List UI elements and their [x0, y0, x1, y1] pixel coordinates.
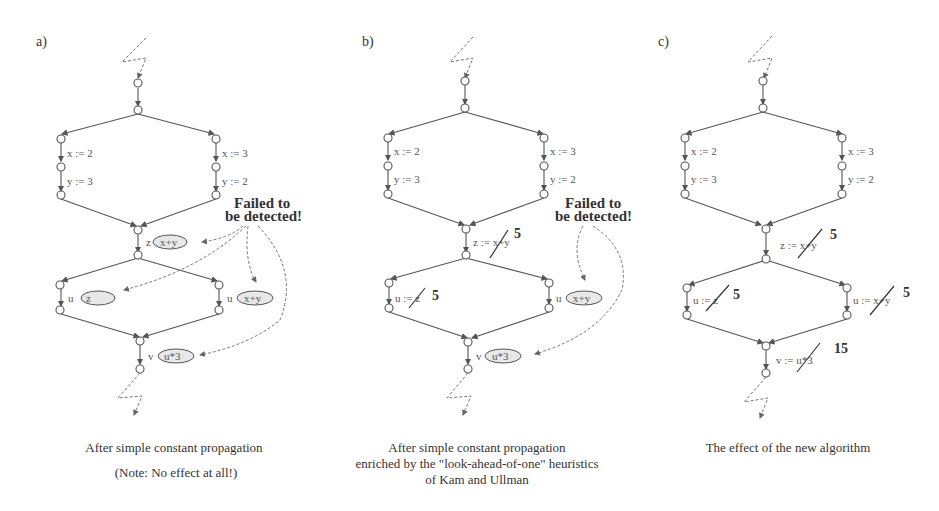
cfg-nodes — [681, 77, 851, 377]
stmt-y-2: y := 2 — [848, 173, 874, 185]
stmt-z-rhs: x+y — [160, 236, 178, 248]
stmt-u-right-lhs: u — [556, 292, 562, 304]
cfg-edges — [388, 85, 549, 364]
stmt-u-right-lhs: u — [227, 292, 233, 304]
stmt-v-rhs: u*3 — [492, 350, 509, 362]
caption-a-line2: (Note: No effect at all!) — [115, 465, 237, 480]
const-value: 5 — [830, 227, 837, 242]
annotation-arrows — [535, 226, 623, 354]
caption-a-line1: After simple constant propagation — [85, 440, 263, 455]
stmt-x-2: x := 2 — [394, 145, 420, 157]
panel-c: c) — [658, 34, 910, 455]
stmt-v-rhs: u*3 — [164, 350, 181, 362]
entry-squiggle — [450, 37, 473, 78]
stmt-u-right-rhs: x+y — [244, 292, 262, 304]
panel-b-label: b) — [362, 34, 374, 50]
stmt-x-3: x := 3 — [222, 147, 248, 159]
caption-c: The effect of the new algorithm — [706, 440, 871, 455]
panel-a-label: a) — [36, 34, 47, 50]
stmt-u-right-rhs: x+y — [573, 292, 591, 304]
caption-b-line1: After simple constant propagation — [388, 440, 566, 455]
stmt-z-lhs: z — [146, 236, 151, 248]
stmt-y-3: y := 3 — [394, 173, 420, 185]
failed-annotation-line2: be detected! — [225, 208, 302, 224]
stmt-z: z := x+y — [473, 236, 510, 248]
panel-b: b) — [355, 34, 632, 487]
stmt-x-3: x := 3 — [550, 145, 576, 157]
stmt-u-left: u := z — [693, 294, 718, 306]
cfg-nodes — [56, 79, 223, 373]
exit-squiggle — [118, 373, 142, 415]
caption-b-line3: of Kam and Ullman — [425, 472, 529, 487]
stmt-y-3: y := 3 — [691, 173, 717, 185]
stmt-x-3: x := 3 — [848, 145, 874, 157]
stmt-v: v := u*3 — [776, 354, 813, 366]
const-value: 5 — [432, 288, 439, 303]
stmt-y-2: y := 2 — [550, 173, 576, 185]
cfg-nodes — [384, 77, 553, 373]
entry-squiggle — [122, 38, 146, 78]
constant-propagation-figure: a) — [0, 0, 939, 511]
caption-b-line2: enriched by the "look-ahead-of-one" heur… — [355, 456, 598, 471]
const-value: 5 — [514, 226, 521, 241]
panel-a: a) — [36, 34, 302, 480]
stmt-x-2: x := 2 — [691, 145, 717, 157]
stmt-y-3: y := 3 — [67, 175, 93, 187]
stmt-u-left-rhs: z — [86, 292, 91, 304]
panel-c-label: c) — [658, 34, 669, 50]
stmt-v-lhs: v — [476, 350, 482, 362]
stmt-u-left-lhs: u — [68, 292, 74, 304]
entry-squiggle — [748, 36, 772, 78]
stmt-y-2: y := 2 — [222, 175, 248, 187]
const-value: 5 — [903, 285, 910, 300]
failed-annotation-line2: be detected! — [555, 208, 632, 224]
exit-squiggle — [744, 377, 768, 418]
stmt-x-2: x := 2 — [67, 147, 93, 159]
const-value: 15 — [834, 341, 848, 356]
const-value: 5 — [733, 287, 740, 302]
stmt-v-lhs: v — [148, 350, 154, 362]
exit-squiggle — [447, 373, 471, 415]
